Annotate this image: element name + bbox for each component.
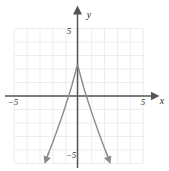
y-tick-negative-5: −5 [66, 150, 77, 160]
figure-background [0, 0, 169, 171]
y-axis-label: y [86, 9, 92, 20]
x-tick-positive-5: 5 [141, 97, 146, 107]
graph-figure: y x 5 −5 −5 5 [0, 0, 169, 171]
y-tick-positive-5: 5 [67, 26, 72, 36]
graph-canvas: y x 5 −5 −5 5 [0, 0, 169, 171]
x-axis-label: x [159, 95, 165, 106]
x-tick-negative-5: −5 [8, 97, 19, 107]
